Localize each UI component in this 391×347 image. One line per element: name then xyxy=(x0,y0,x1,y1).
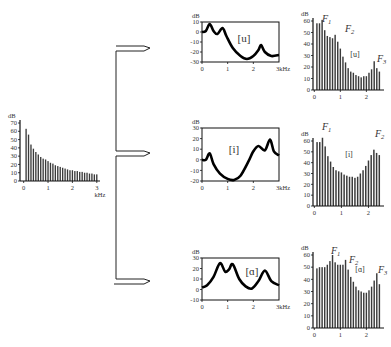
vowel-label: [ɑ] xyxy=(245,265,258,277)
x-tick-label: 0 xyxy=(200,184,203,191)
spectrum-bar xyxy=(346,176,347,206)
spectrum-bar xyxy=(362,170,363,206)
output-i-chart: 0102030405060012dBF1F2[i] xyxy=(301,121,385,216)
spectrum-bar xyxy=(376,153,377,206)
x-tick-label: 1 xyxy=(340,209,343,216)
spectrum-bar xyxy=(345,260,346,328)
spectrum-bar xyxy=(319,142,320,206)
spectrum-bar xyxy=(316,142,317,206)
y-unit-label: dB xyxy=(301,130,309,137)
spectrum-bar xyxy=(74,171,75,181)
spectrum-bar xyxy=(360,77,361,90)
y-tick-label: 20 xyxy=(304,300,311,307)
spectrum-bar xyxy=(89,174,90,181)
spectrum-bar xyxy=(360,292,361,329)
output-a-chart: 0102030405060012dBF1F2F3[ɑ] xyxy=(301,244,388,338)
filter-curve xyxy=(202,140,279,180)
filter-curve xyxy=(202,263,279,289)
x-tick-label: 3 xyxy=(95,184,98,191)
spectrum-bar xyxy=(319,23,320,90)
y-tick-label: 20 xyxy=(304,63,311,70)
spectrum-bar xyxy=(347,270,348,328)
x-tick-label: 1 xyxy=(46,184,49,191)
y-tick-label: 10 xyxy=(11,169,18,176)
y-tick-label: 20 xyxy=(11,161,18,168)
y-tick-label: 30 xyxy=(193,254,200,261)
x-tick-label: 2 xyxy=(367,209,370,216)
spectrum-bar xyxy=(370,155,371,206)
output-u-chart: 0102030405060012dBF1F2F3[u] xyxy=(301,10,387,100)
spectrum-bar xyxy=(358,76,359,90)
spectrum-bar xyxy=(342,265,343,328)
spectrum-bar xyxy=(350,72,351,90)
spectrum-bar xyxy=(55,165,56,181)
spectrum-bar xyxy=(324,267,325,328)
spectrum-bar xyxy=(363,76,364,90)
vowel-label: [u] xyxy=(350,50,360,59)
spectrum-bar xyxy=(358,290,359,328)
y-tick-label: 10 xyxy=(304,312,311,319)
spectrum-bar xyxy=(322,138,323,206)
y-tick-label: 20 xyxy=(193,135,200,142)
y-tick-label: 30 xyxy=(193,124,200,131)
spectrum-bar xyxy=(366,293,367,328)
spectrum-bar xyxy=(321,267,322,328)
y-unit-label: dB xyxy=(192,248,200,255)
y-tick-label: 60 xyxy=(11,127,18,134)
spectrum-bar xyxy=(360,174,361,207)
x-tick-label: 2 xyxy=(252,303,255,310)
spectrum-bar xyxy=(335,170,336,206)
spectrum-bar xyxy=(357,177,358,206)
formant-label: F3 xyxy=(376,53,387,65)
spectrum-bar xyxy=(79,172,80,181)
spectrum-bar xyxy=(353,282,354,328)
spectrum-bar xyxy=(52,164,53,181)
spectrum-bar xyxy=(373,61,374,90)
vowel-label: [ɑ] xyxy=(355,265,365,274)
y-tick-label: 0 xyxy=(307,324,310,331)
y-tick-label: -20 xyxy=(190,48,199,55)
spectrum-bar xyxy=(327,156,328,206)
spectrum-bar xyxy=(343,175,344,206)
spectrum-bar xyxy=(329,37,330,90)
source-filter-diagram: 0102030405060700123dBkHz 100-10-20-30012… xyxy=(0,0,391,347)
spectrum-bar xyxy=(33,149,34,181)
spectrum-bar xyxy=(91,174,92,181)
spectrum-bar xyxy=(57,166,58,181)
y-tick-label: 0 xyxy=(14,177,17,184)
spectrum-bar xyxy=(366,76,367,90)
spectrum-bar xyxy=(379,72,380,90)
spectrum-bar xyxy=(94,174,95,181)
y-tick-label: 30 xyxy=(304,170,311,177)
x-tick-label: 1 xyxy=(339,331,342,338)
x-tick-label: 0 xyxy=(200,65,203,72)
spectrum-bar xyxy=(28,135,29,181)
spectrum-bar xyxy=(96,174,97,181)
spectrum-bar xyxy=(40,157,41,181)
formant-label: F1 xyxy=(321,121,331,133)
y-tick-label: 40 xyxy=(11,144,18,151)
spectrum-bar xyxy=(368,161,369,207)
x-tick-label: 0 xyxy=(313,93,316,100)
x-unit-label: 3kHz xyxy=(276,65,290,72)
y-tick-label: 30 xyxy=(304,52,311,59)
spectrum-bar xyxy=(329,261,330,328)
x-tick-label: 2 xyxy=(252,184,255,191)
formant-label: F2 xyxy=(374,128,385,140)
y-tick-label: 30 xyxy=(304,288,311,295)
x-tick-label: 2 xyxy=(365,93,368,100)
vowel-label: [u] xyxy=(238,32,251,44)
y-unit-label: dB xyxy=(301,244,309,251)
x-tick-label: 0 xyxy=(22,184,25,191)
spectrum-bar xyxy=(45,159,46,181)
spectrum-bar xyxy=(379,284,380,328)
spectrum-bar xyxy=(355,75,356,90)
y-tick-label: 60 xyxy=(304,17,311,24)
y-tick-label: 60 xyxy=(304,251,311,258)
y-tick-label: 0 xyxy=(307,202,310,209)
spectrum-bar xyxy=(373,281,374,328)
y-tick-label: 10 xyxy=(304,191,311,198)
connector-arrows xyxy=(114,46,150,284)
spectrum-bar xyxy=(330,162,331,206)
x-unit-label: 3kHz xyxy=(276,184,290,191)
